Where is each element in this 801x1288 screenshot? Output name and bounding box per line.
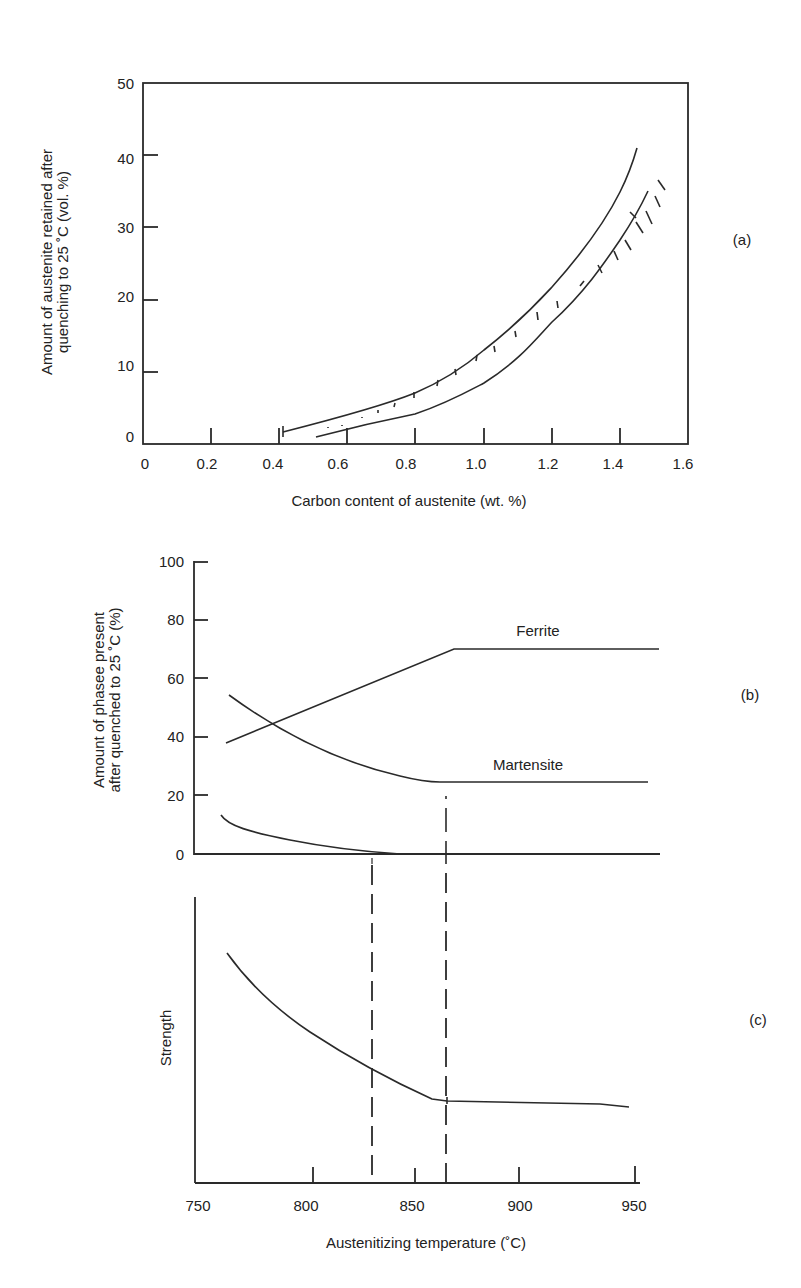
chart-a-y-axis-title: Amount of austenite retained after quenc… xyxy=(38,149,71,375)
x-tick-label: 0.2 xyxy=(197,455,218,472)
x-tick-label: 900 xyxy=(507,1197,532,1214)
y-tick-label: 50 xyxy=(117,75,134,92)
x-tick-label: 750 xyxy=(185,1197,210,1214)
y-tick-label: 80 xyxy=(167,611,184,628)
y-axis-title: Strength xyxy=(157,1010,174,1067)
y-axis-title-line1: Amount of austenite retained after xyxy=(38,149,55,375)
chart-a-x-axis-title: Carbon content of austenite (wt. %) xyxy=(291,492,526,509)
x-tick-label: 0.8 xyxy=(396,455,417,472)
chart-c-y-axis-title: Strength xyxy=(157,1010,174,1067)
x-tick-label: 1.4 xyxy=(603,455,624,472)
chart-a: 0 10 20 30 40 50 0 0.2 0.4 0.6 0.8 1.0 1… xyxy=(38,75,751,509)
x-tick-label: 1.6 xyxy=(673,455,694,472)
panel-label-b: (b) xyxy=(741,686,759,703)
y-tick-label: 0 xyxy=(176,846,184,863)
chart-c: 750 800 850 900 950 Austenitizing temper… xyxy=(157,865,767,1251)
x-tick-label: 950 xyxy=(621,1197,646,1214)
y-axis-title-line2: after quenched to 25 ˚C (%) xyxy=(106,607,123,792)
hatch-marks xyxy=(328,180,665,428)
x-tick-label: 1.2 xyxy=(538,455,559,472)
retained-austenite-curve xyxy=(221,815,400,854)
x-tick-label: 850 xyxy=(399,1197,424,1214)
y-tick-label: 10 xyxy=(117,357,134,374)
y-tick-label: 0 xyxy=(126,428,134,445)
chart-c-x-tick-labels: 750 800 850 900 950 xyxy=(185,1197,646,1214)
chart-a-frame xyxy=(143,83,688,444)
chart-c-x-axis-title: Austenitizing temperature (˚C) xyxy=(326,1234,526,1251)
x-tick-label: 0 xyxy=(141,455,149,472)
y-axis-title-line1: Amount of phasee present xyxy=(90,611,107,788)
y-tick-label: 100 xyxy=(159,553,184,570)
x-tick-label: 1.0 xyxy=(466,455,487,472)
chart-b-y-axis-title: Amount of phasee present after quenched … xyxy=(90,607,123,792)
y-axis-title-line2: quenching to 25 ˚C (vol. %) xyxy=(54,171,71,353)
y-tick-label: 20 xyxy=(167,787,184,804)
martensite-label: Martensite xyxy=(493,756,563,773)
x-tick-label: 0.6 xyxy=(328,455,349,472)
chart-c-x-ticks xyxy=(313,1166,635,1183)
chart-a-x-tick-labels: 0 0.2 0.4 0.6 0.8 1.0 1.2 1.4 1.6 xyxy=(141,455,694,472)
chart-b-y-ticks xyxy=(194,562,208,795)
y-tick-label: 30 xyxy=(117,219,134,236)
figure: 0 10 20 30 40 50 0 0.2 0.4 0.6 0.8 1.0 1… xyxy=(0,0,801,1288)
chart-a-y-ticks xyxy=(143,155,158,372)
chart-a-x-ticks xyxy=(211,428,620,444)
y-tick-label: 40 xyxy=(167,728,184,745)
chart-b-y-tick-labels: 0 20 40 60 80 100 xyxy=(159,553,184,863)
panel-label-a: (a) xyxy=(733,231,751,248)
strength-curve xyxy=(227,953,629,1107)
martensite-curve xyxy=(229,695,648,782)
y-tick-label: 20 xyxy=(117,288,134,305)
panel-label-c: (c) xyxy=(749,1011,767,1028)
chart-a-y-tick-labels: 0 10 20 30 40 50 xyxy=(117,75,134,445)
y-tick-label: 60 xyxy=(167,670,184,687)
ferrite-curve xyxy=(226,649,659,743)
x-tick-label: 0.4 xyxy=(263,455,284,472)
ferrite-label: Ferrite xyxy=(516,622,559,639)
x-tick-label: 800 xyxy=(293,1197,318,1214)
y-tick-label: 40 xyxy=(117,150,134,167)
chart-b: 0 20 40 60 80 100 Amount of phasee prese… xyxy=(90,553,759,864)
